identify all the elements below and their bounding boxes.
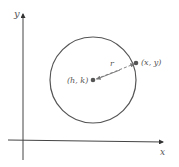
radius-arrow-back xyxy=(97,70,120,79)
x-axis xyxy=(8,140,163,142)
circle-diagram: y x r (h, k) (x, y) xyxy=(0,0,179,167)
radius-label: r xyxy=(110,59,115,68)
point-label: (x, y) xyxy=(141,58,161,67)
y-axis-label: y xyxy=(13,8,20,19)
circle-point xyxy=(134,61,139,66)
x-axis-label: x xyxy=(160,147,165,157)
center-point xyxy=(91,78,96,83)
center-label: (h, k) xyxy=(67,76,88,85)
